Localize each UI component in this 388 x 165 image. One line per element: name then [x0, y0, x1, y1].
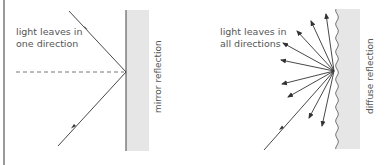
incident-ray	[58, 72, 126, 146]
diffuse-surface	[336, 9, 360, 149]
diffuse-rays	[281, 14, 334, 126]
diffuse-ray-6	[282, 71, 334, 84]
mirror-caption: light leaves in one direction	[16, 26, 82, 50]
reflection-diagram	[0, 0, 388, 165]
mirror-caption-line-1: light leaves in	[16, 26, 82, 38]
diffuse-ray-5	[281, 60, 334, 71]
mirror-caption-line-2: one direction	[16, 38, 82, 50]
mirror-surface	[126, 10, 149, 151]
diffuse-caption-line-1: light leaves in	[220, 26, 286, 38]
diffuse-incident-ray	[264, 71, 334, 150]
diffuse-surface-label: diffuse reflection	[365, 38, 375, 114]
diffuse-caption-line-2: all directions	[220, 38, 286, 50]
diffuse-caption: light leaves in all directions	[220, 26, 286, 50]
diffuse-ray-9	[322, 71, 334, 126]
diffuse-ray-3	[297, 31, 334, 71]
mirror-surface-label: mirror reflection	[153, 40, 163, 113]
diffuse-incident-arrowhead-icon	[279, 126, 284, 131]
diffuse-ray-4	[283, 43, 334, 71]
